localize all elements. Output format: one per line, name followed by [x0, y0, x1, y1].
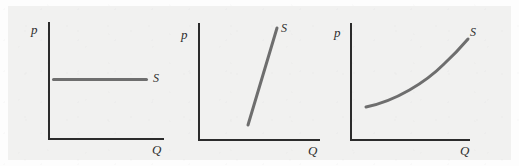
- y-axis-label: p: [334, 26, 341, 39]
- panel-convex-increasing-supply: p Q S: [344, 0, 519, 166]
- supply-curve-label: S: [470, 26, 476, 38]
- panel-steep-linear-supply: p Q S: [172, 0, 344, 166]
- y-axis-label: p: [31, 23, 38, 36]
- panel-perfectly-elastic-supply: p Q S: [0, 0, 172, 166]
- x-axis-label: Q: [152, 143, 161, 156]
- horizontal-axis: [48, 138, 164, 140]
- supply-curve: [52, 78, 148, 81]
- supply-curve-label: S: [281, 22, 287, 34]
- vertical-axis: [48, 22, 50, 140]
- supply-curve-figure: p Q S p Q S p Q S: [0, 0, 519, 166]
- supply-curve-label: S: [153, 72, 159, 84]
- supply-curve: [172, 0, 344, 166]
- supply-curve: [344, 0, 519, 166]
